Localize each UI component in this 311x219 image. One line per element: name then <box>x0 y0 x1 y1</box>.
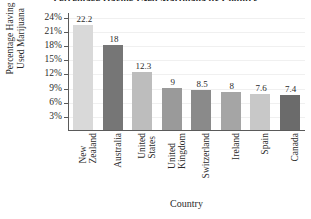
bar-slot <box>277 13 305 130</box>
x-tick-label: Canada <box>290 133 300 162</box>
y-axis-title: Percentage Having Used Marijuana <box>5 0 26 98</box>
x-tick-label-line: Spain <box>260 133 270 155</box>
y-axis-title-line-2: Used Marijuana <box>15 0 26 98</box>
x-label-slot: NewZealand <box>69 133 97 195</box>
bar-value-label: 12.3 <box>129 62 157 71</box>
bar-value-label: 8 <box>218 82 246 91</box>
x-tick-label-line: States <box>147 133 157 159</box>
bar-slot <box>100 13 128 130</box>
y-tick-label: 6% <box>49 98 62 108</box>
y-tick-label: 12% <box>45 69 62 79</box>
chart-title: Percentage Having Used Marijuana by Coun… <box>0 0 311 1</box>
bar-slot <box>159 13 187 130</box>
x-tick-label: NewZealand <box>78 133 98 164</box>
bar[interactable] <box>162 88 182 130</box>
bar-slot <box>188 13 216 130</box>
x-tick-label-line: Switzerland <box>201 133 211 178</box>
bar-value-label: 7.4 <box>277 85 305 94</box>
bar-value-label: 22.2 <box>70 15 98 24</box>
bar-value-label: 18 <box>100 35 128 44</box>
bar-value-label: 9 <box>159 78 187 87</box>
x-tick-label-line: United <box>137 133 147 159</box>
x-tick-label-line: United <box>167 133 177 169</box>
x-label-slot: Canada <box>276 133 304 195</box>
bar[interactable] <box>73 25 93 130</box>
x-label-slot: Australia <box>99 133 127 195</box>
y-tick-label: 15% <box>45 55 62 65</box>
bar-value-label: 7.6 <box>247 84 275 93</box>
y-axis-ticks: 3%6%9%12%15%18%21%24% <box>26 13 64 131</box>
y-tick-label: 24% <box>45 13 62 23</box>
x-label-slot: Spain <box>246 133 274 195</box>
y-tick-label: 18% <box>45 41 62 51</box>
x-label-slot: UnitedStates <box>128 133 156 195</box>
bar-slot <box>218 13 246 130</box>
x-tick-label: Spain <box>260 133 270 155</box>
x-tick-label-line: Australia <box>113 133 123 168</box>
x-label-slot: Ireland <box>217 133 245 195</box>
x-tick-label-line: Kingdom <box>177 133 187 169</box>
bar-slot <box>70 13 98 130</box>
plot-area: 22.21812.398.587.67.4 <box>68 13 305 131</box>
x-tick-label: Ireland <box>231 133 241 160</box>
bar[interactable] <box>191 90 211 130</box>
x-tick-label-line: New <box>78 133 88 164</box>
x-tick-label-line: Canada <box>290 133 300 162</box>
x-axis-title: Country <box>68 198 305 209</box>
x-label-slot: Switzerland <box>187 133 215 195</box>
bar-slot <box>129 13 157 130</box>
bar-value-label: 8.5 <box>188 80 216 89</box>
bars-layer: 22.21812.398.587.67.4 <box>69 13 305 130</box>
y-axis-title-line-1: Percentage Having <box>5 0 16 98</box>
y-tick-label: 3% <box>49 112 62 122</box>
x-tick-label: UnitedStates <box>137 133 157 159</box>
bar[interactable] <box>280 95 300 130</box>
x-tick-label: Switzerland <box>201 133 211 178</box>
bar-chart: Percentage Having Used Marijuana by Coun… <box>0 0 311 219</box>
x-label-slot: UnitedKingdom <box>158 133 186 195</box>
bar[interactable] <box>132 72 152 130</box>
x-tick-label-line: Zealand <box>88 133 98 164</box>
bar-slot <box>247 13 275 130</box>
bar[interactable] <box>250 94 270 130</box>
y-tick-label: 21% <box>45 27 62 37</box>
bar[interactable] <box>103 45 123 130</box>
x-tick-label: Australia <box>113 133 123 168</box>
y-tick-label: 9% <box>49 84 62 94</box>
x-axis-tick-labels: NewZealandAustraliaUnitedStatesUnitedKin… <box>68 133 305 195</box>
x-tick-label-line: Ireland <box>231 133 241 160</box>
bar[interactable] <box>221 92 241 130</box>
x-tick-label: UnitedKingdom <box>167 133 187 169</box>
